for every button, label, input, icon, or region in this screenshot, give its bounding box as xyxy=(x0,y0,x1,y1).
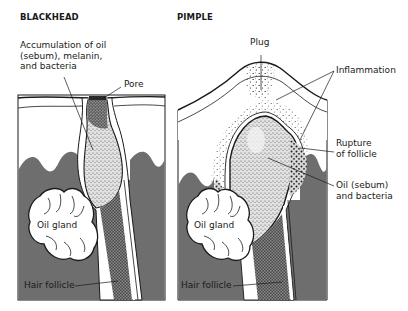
label-rupture: Rupture of follicle xyxy=(336,138,377,159)
label-accumulation: Accumulation of oil (sebum), melanin, an… xyxy=(20,40,106,72)
label-pore: Pore xyxy=(124,79,144,90)
label-plug: Plug xyxy=(250,37,269,48)
label-inflammation: Inflammation xyxy=(336,65,396,76)
label-hair-follicle: Hair follicle xyxy=(24,280,75,291)
label-oil-gland: Oil gland xyxy=(194,220,234,231)
label-oil-bacteria: Oil (sebum) and bacteria xyxy=(336,180,393,201)
label-oil-gland: Oil gland xyxy=(37,220,77,231)
blackhead-title: BLACKHEAD xyxy=(20,12,79,22)
blackhead-panel xyxy=(18,77,165,300)
label-hair-follicle: Hair follicle xyxy=(181,280,232,291)
pimple-panel xyxy=(178,55,334,300)
pimple-title: PIMPLE xyxy=(177,12,213,22)
